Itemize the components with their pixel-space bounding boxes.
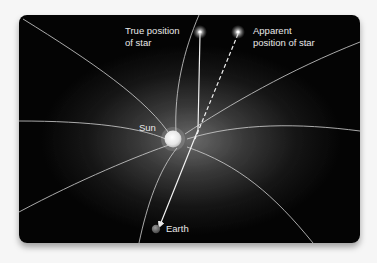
field-line-upper-right: [185, 42, 360, 134]
field-line-lower-left: [19, 144, 172, 212]
field-line-lower-right: [187, 147, 313, 243]
sun-icon: [161, 127, 185, 151]
space-diagram-panel: True position of star Apparent position …: [19, 15, 360, 243]
apparent-star-icon: [231, 25, 245, 39]
field-line-right: [187, 126, 360, 139]
sun-label: Sun: [139, 122, 156, 134]
earth-icon: [152, 225, 160, 233]
figure-stage: True position of star Apparent position …: [0, 0, 377, 263]
apparent-star-label: Apparent position of star: [253, 25, 315, 49]
earth-label: Earth: [166, 223, 189, 235]
true-star-icon: [193, 25, 207, 39]
gravitational-lensing-diagram: [19, 15, 360, 243]
field-lines: [19, 15, 360, 243]
true-star-label: True position of star: [125, 25, 180, 49]
